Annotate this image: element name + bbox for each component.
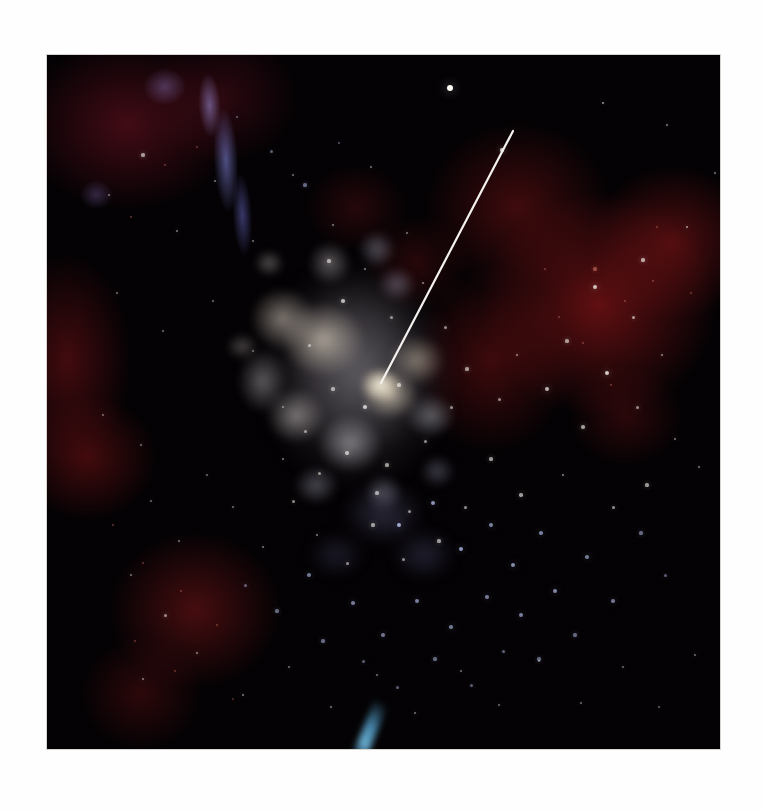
- page-caption: [0, 0, 1, 1]
- document-page: Color astronomical image of a bright sta…: [0, 0, 762, 811]
- pointer-line: [47, 55, 720, 749]
- astronomical-image-plate: Color astronomical image of a bright sta…: [47, 55, 720, 749]
